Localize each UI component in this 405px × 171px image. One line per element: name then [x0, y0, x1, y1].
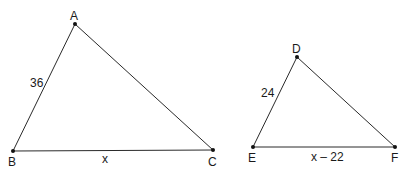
side-label-ef: x – 22 [311, 150, 344, 164]
side-bc [13, 150, 213, 151]
vertex-f [393, 145, 397, 149]
triangle-abc: A B C 36 x [8, 9, 217, 169]
vertex-label-b: B [8, 155, 16, 169]
triangle-def: D E F 24 x – 22 [248, 42, 398, 165]
vertex-label-a: A [70, 9, 78, 23]
vertex-c [211, 148, 215, 152]
vertex-label-c: C [208, 155, 217, 169]
similar-triangles-diagram: A B C 36 x D E F 24 x – 22 [0, 0, 405, 171]
vertex-label-f: F [391, 151, 398, 165]
side-label-ab: 36 [30, 76, 44, 90]
vertex-label-e: E [248, 151, 256, 165]
side-ab [13, 24, 75, 151]
vertex-label-d: D [292, 42, 301, 56]
side-df [297, 57, 395, 147]
side-label-bc: x [102, 152, 108, 166]
side-label-de: 24 [261, 86, 275, 100]
vertex-e [251, 145, 255, 149]
side-ac [75, 24, 213, 150]
side-de [253, 57, 297, 147]
vertex-b [11, 149, 15, 153]
